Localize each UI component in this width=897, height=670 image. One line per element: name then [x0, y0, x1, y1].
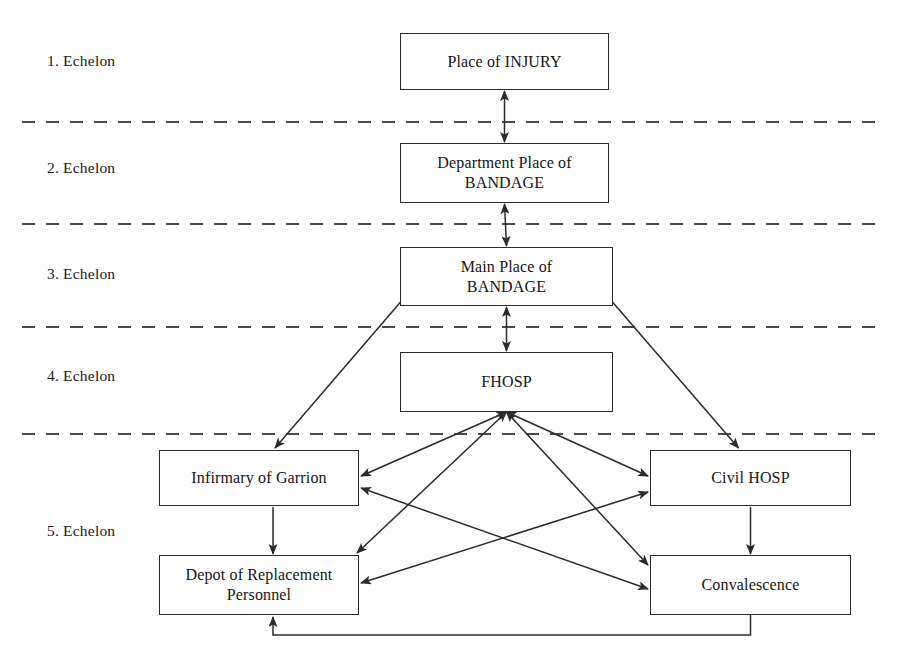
node-civil-hosp[interactable]: Civil HOSP	[650, 450, 851, 506]
edge-main-bandage-civil-hosp	[609, 298, 739, 448]
node-label-fhosp: FHOSP	[407, 372, 606, 392]
edge-fhosp-infirmary	[361, 412, 507, 476]
node-injury[interactable]: Place of INJURY	[400, 33, 609, 90]
node-label-infirmary: Infirmary of Garrion	[166, 468, 352, 488]
node-dept-bandage[interactable]: Department Place of BANDAGE	[400, 143, 609, 203]
edge-main-bandage-infirmary	[275, 298, 404, 448]
diagram-canvas: 1. Echelon2. Echelon3. Echelon4. Echelon…	[0, 0, 897, 670]
echelon-label-1: 1. Echelon	[47, 52, 115, 70]
echelon-label-4: 4. Echelon	[47, 367, 115, 385]
node-convalescence[interactable]: Convalescence	[650, 555, 851, 615]
edge-infirmary-convalescence	[361, 488, 648, 589]
echelon-label-3: 3. Echelon	[47, 265, 115, 283]
node-label-main-bandage: Main Place of BANDAGE	[407, 257, 606, 296]
node-label-depot: Depot of Replacement Personnel	[166, 565, 352, 604]
node-label-convalescence: Convalescence	[657, 575, 844, 595]
echelon-label-5: 5. Echelon	[47, 522, 115, 540]
edge-fhosp-civil-hosp	[507, 412, 649, 476]
node-depot[interactable]: Depot of Replacement Personnel	[159, 555, 359, 615]
node-main-bandage[interactable]: Main Place of BANDAGE	[400, 247, 613, 306]
echelon-label-2: 2. Echelon	[47, 159, 115, 177]
node-fhosp[interactable]: FHOSP	[400, 352, 613, 412]
node-label-dept-bandage: Department Place of BANDAGE	[407, 153, 602, 192]
edge-civil-hosp-depot	[361, 492, 648, 583]
edge-convalescence-depot-return	[273, 615, 751, 635]
node-label-injury: Place of INJURY	[407, 52, 602, 72]
edge-dept-bandage-main-bandage	[505, 204, 507, 246]
node-infirmary[interactable]: Infirmary of Garrion	[159, 450, 359, 506]
node-label-civil-hosp: Civil HOSP	[657, 468, 844, 488]
